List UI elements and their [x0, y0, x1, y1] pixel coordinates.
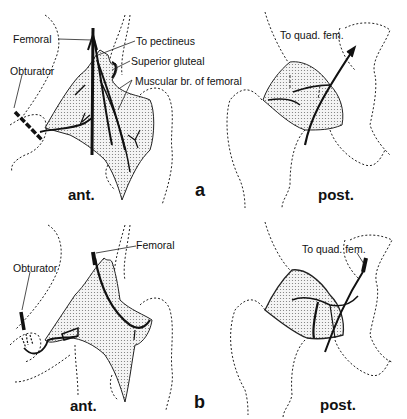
label-to-quad-fem-b: To quad. fem. — [302, 244, 366, 255]
label-superior-gluteal: Superior gluteal — [131, 56, 205, 67]
panel-b-anterior-drawing — [10, 225, 172, 410]
panel-a-posterior-drawing — [227, 12, 390, 208]
label-obturator-b: Obturator — [13, 263, 57, 274]
view-label-post-a: post. — [318, 187, 354, 202]
view-label-post-b: post. — [320, 397, 356, 412]
panel-letter-a: a — [195, 181, 205, 199]
label-to-pectineus: To pectineus — [136, 36, 195, 47]
label-obturator-a: Obturator — [10, 66, 54, 77]
label-to-quad-fem-a: To quad. fem. — [280, 30, 344, 41]
panel-letter-b: b — [194, 393, 205, 411]
view-label-ant-a: ant. — [68, 187, 95, 202]
label-femoral-a: Femoral — [13, 34, 52, 45]
label-femoral-b: Femoral — [136, 240, 175, 251]
view-label-ant-b: ant. — [70, 398, 97, 413]
label-muscular-br-of-femoral: Muscular br. of femoral — [135, 76, 242, 87]
